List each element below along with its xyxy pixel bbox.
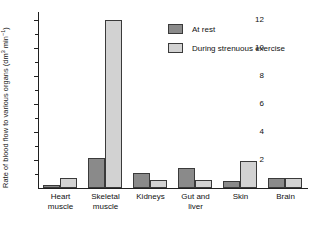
y-axis-title-mid: min: [1, 36, 10, 50]
legend-swatch-icon: [168, 43, 183, 53]
bar-at-rest: [268, 178, 285, 188]
y-axis-title-main: Rate of blood flow to various organs (dm: [1, 53, 10, 188]
y-axis-title: Rate of blood flow to various organs (dm…: [0, 27, 10, 188]
bar-during-exercise: [105, 20, 122, 188]
legend-label: At rest: [192, 25, 215, 34]
y-axis-title-container: Rate of blood flow to various organs (dm…: [0, 0, 16, 195]
bar-at-rest: [223, 181, 240, 188]
bar-group: [43, 12, 88, 188]
x-axis-label-line: Brain: [258, 192, 313, 202]
bar-during-exercise: [195, 180, 212, 188]
bar-at-rest: [43, 185, 60, 188]
bar-group: [88, 12, 133, 188]
chart-legend: At restDuring strenuous exercise: [168, 24, 313, 62]
chart-page: Rate of blood flow to various organs (dm…: [0, 0, 319, 230]
bar-during-exercise: [60, 178, 77, 188]
y-axis-title-exponent-time: −1: [0, 30, 6, 36]
bar-during-exercise: [240, 161, 257, 188]
y-axis-title-end: ): [1, 27, 10, 30]
x-axis-label-line: liver: [168, 202, 223, 212]
legend-label: During strenuous exercise: [192, 44, 285, 53]
bar-during-exercise: [285, 178, 302, 188]
bar-during-exercise: [150, 180, 167, 188]
x-axis-label-line: muscle: [78, 202, 133, 212]
bar-at-rest: [178, 168, 195, 188]
bar-at-rest: [133, 173, 150, 188]
x-axis-line: [38, 188, 308, 189]
legend-swatch-icon: [168, 24, 183, 34]
bar-at-rest: [88, 158, 105, 188]
legend-item: During strenuous exercise: [168, 43, 313, 53]
legend-item: At rest: [168, 24, 313, 34]
y-axis-title-exponent-volume: 3: [0, 50, 6, 53]
x-axis-category-label: Brain: [258, 192, 313, 202]
